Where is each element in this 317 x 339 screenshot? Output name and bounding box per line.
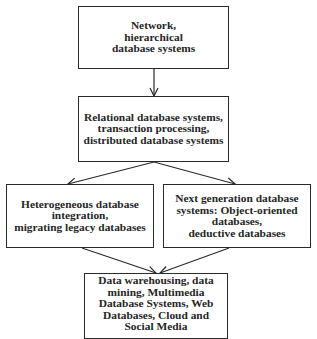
arrow-n3-n5 (82, 248, 156, 273)
arrow-n4-n5 (160, 248, 229, 273)
node-label: Network, hierarchical database systems (112, 20, 195, 55)
arrow-n2-n3 (68, 162, 154, 184)
node-heterogeneous: Heterogeneous database integration, migr… (6, 184, 154, 248)
node-next-generation: Next generation database systems: Object… (163, 184, 311, 248)
node-label: Next generation database systems: Object… (175, 193, 298, 239)
node-label: Heterogeneous database integration, migr… (14, 199, 146, 234)
node-label: Data warehousing, data mining, Multimedi… (98, 275, 213, 333)
node-label: Relational database systems, transaction… (84, 112, 224, 147)
node-relational: Relational database systems, transaction… (78, 96, 229, 162)
arrow-n2-n4 (154, 162, 235, 184)
node-data-warehousing: Data warehousing, data mining, Multimedi… (84, 273, 228, 339)
node-network-hierarchical: Network, hierarchical database systems (78, 6, 229, 69)
